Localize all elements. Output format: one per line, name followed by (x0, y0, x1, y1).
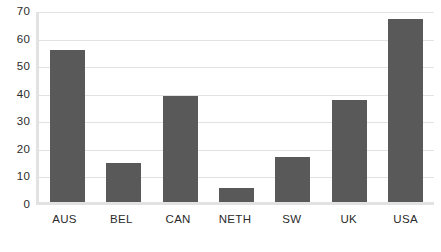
bar-slot (378, 12, 434, 202)
y-tick-label: 10 (0, 172, 30, 184)
bar[interactable] (50, 50, 85, 202)
plot-area (36, 12, 434, 205)
bar-slot (265, 12, 321, 202)
bar-slot (208, 12, 264, 202)
y-tick-label: 0 (0, 199, 30, 211)
x-tick-slot: AUS (36, 209, 93, 227)
bar-chart: 706050403020100 AUSBELCANNETHSWUKUSA (0, 0, 441, 252)
x-tick-label: NETH (219, 213, 252, 225)
y-axis: 706050403020100 (0, 12, 30, 205)
y-tick-label: 70 (0, 6, 30, 18)
bar[interactable] (106, 163, 141, 202)
bar[interactable] (163, 96, 198, 202)
bar[interactable] (332, 100, 367, 202)
x-tick-slot: SW (263, 209, 320, 227)
y-tick-label: 50 (0, 61, 30, 73)
bar-slot (95, 12, 151, 202)
y-tick-label: 30 (0, 117, 30, 129)
x-axis: AUSBELCANNETHSWUKUSA (36, 209, 434, 227)
y-tick-label: 40 (0, 89, 30, 101)
x-tick-slot: USA (377, 209, 434, 227)
x-tick-label: USA (393, 213, 418, 225)
x-tick-label: CAN (166, 213, 191, 225)
bar-slot (152, 12, 208, 202)
x-tick-label: SW (282, 213, 301, 225)
bar-slot (39, 12, 95, 202)
y-tick-label: 20 (0, 144, 30, 156)
bars-layer (39, 12, 434, 202)
bar[interactable] (275, 157, 310, 202)
bar[interactable] (388, 19, 423, 202)
bar[interactable] (219, 188, 254, 202)
x-tick-label: BEL (110, 213, 133, 225)
x-tick-slot: BEL (93, 209, 150, 227)
x-tick-slot: UK (320, 209, 377, 227)
x-tick-label: UK (340, 213, 357, 225)
x-tick-slot: CAN (150, 209, 207, 227)
bar-slot (321, 12, 377, 202)
y-tick-label: 60 (0, 34, 30, 46)
x-tick-slot: NETH (207, 209, 264, 227)
x-tick-label: AUS (52, 213, 77, 225)
